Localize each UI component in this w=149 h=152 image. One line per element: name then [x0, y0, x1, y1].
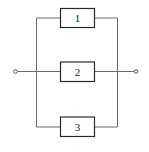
parallel-diagram: 1 2 3 — [0, 0, 149, 152]
output-terminal — [134, 70, 138, 74]
block-1: 1 — [61, 9, 95, 28]
block-2: 2 — [61, 62, 95, 82]
block-1-label: 1 — [75, 12, 81, 24]
block-2-label: 2 — [75, 66, 81, 78]
block-3-label: 3 — [75, 121, 81, 133]
input-terminal — [14, 70, 18, 74]
block-3: 3 — [61, 117, 95, 137]
